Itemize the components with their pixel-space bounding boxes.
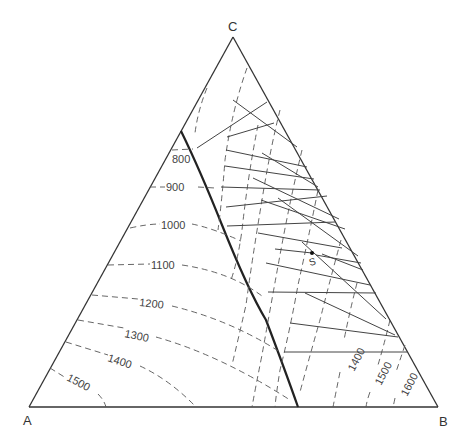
isotherm-label-1300: 1300 <box>124 327 150 344</box>
isotherm-label-900: 900 <box>166 181 184 193</box>
figure-caption-cropped <box>22 432 322 438</box>
vertex-label-c: C <box>228 19 237 34</box>
isotherm-label-800: 800 <box>172 153 190 165</box>
isotherm-label-1100: 1100 <box>151 259 175 271</box>
isotherm-label-right-1500: 1500 <box>372 360 394 387</box>
isotherm-label-1000: 1000 <box>161 219 185 231</box>
isotherm-label-1400: 1400 <box>106 351 133 370</box>
isotherm-label-1200: 1200 <box>139 296 165 310</box>
isotherm-label-1500: 1500 <box>65 371 92 393</box>
vertex-label-a: A <box>23 413 32 428</box>
phase-boundary-curve <box>181 131 298 407</box>
ternary-phase-diagram: A B C 800 900 1000 1100 1200 1300 1400 1… <box>0 0 468 442</box>
vertex-label-b: B <box>439 414 448 429</box>
isotherm-label-right-1400: 1400 <box>345 346 367 373</box>
point-s-marker <box>310 251 314 255</box>
point-s-label: S <box>308 255 318 267</box>
isotherm-label-right-1600: 1600 <box>398 371 420 398</box>
